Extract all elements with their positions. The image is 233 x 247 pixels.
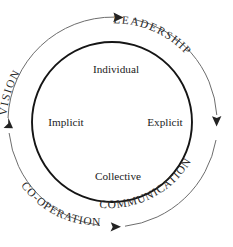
- ring-label-communication: COMMUNICATION: [99, 155, 193, 210]
- ring-label-cooperation: CO-OPERATION: [19, 179, 101, 227]
- arrow-bottom: [111, 222, 122, 231]
- inner-label-explicit: Explicit: [147, 116, 183, 128]
- arrow-left: [4, 118, 13, 129]
- inner-label-implicit: Implicit: [48, 116, 84, 128]
- diagram-canvas: VISION LEADERSHIP COMMUNICATION CO-OPERA…: [0, 0, 233, 247]
- arrow-right: [212, 116, 221, 127]
- ring-label-vision: VISION: [0, 67, 23, 116]
- ring-label-leadership: LEADERSHIP: [113, 13, 194, 57]
- inner-label-individual: Individual: [93, 63, 139, 75]
- cycle-diagram: VISION LEADERSHIP COMMUNICATION CO-OPERA…: [0, 0, 233, 247]
- inner-label-collective: Collective: [95, 170, 141, 182]
